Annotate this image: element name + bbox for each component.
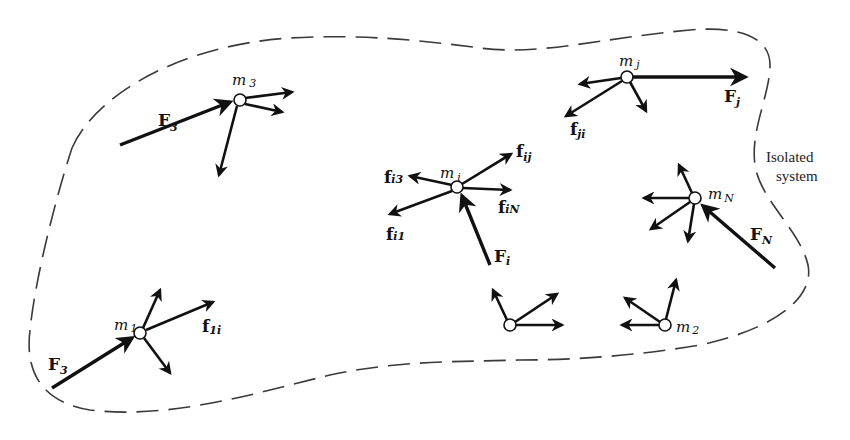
arrow-f-ij <box>462 154 511 184</box>
particle-mN: FN mN <box>644 165 775 268</box>
arrow-m1-down <box>144 338 170 373</box>
label-Fj: Fj <box>724 86 740 109</box>
arrow-mN-down-left <box>651 202 690 229</box>
arrow-m2-up <box>666 280 676 319</box>
particle-m1: F3 f1i m1 <box>48 290 221 388</box>
arrow-m2-up-left <box>625 298 660 322</box>
particle-m3: F3 m3 <box>120 71 292 175</box>
label-Fi: Fi <box>494 246 510 268</box>
particle-mj: Fj fji mj <box>566 52 745 141</box>
arrow-m1-up <box>143 290 160 328</box>
label-f-1i: f1i <box>202 316 221 337</box>
mass-m3 <box>234 94 246 106</box>
mass-mN <box>689 192 701 204</box>
arrow-m3-right-down <box>245 104 282 112</box>
force-arrow-F3-on-m1 <box>52 338 132 388</box>
arrow-mj-left <box>580 78 621 84</box>
arrow-f-iN <box>463 188 510 190</box>
mass-m2 <box>659 319 671 331</box>
particle-unlabeled <box>493 290 562 331</box>
arrow-m3-right <box>245 92 292 98</box>
label-mN: mN <box>708 185 734 205</box>
label-m2: m2 <box>676 318 699 337</box>
label-FN: FN <box>750 224 773 247</box>
isolated-system-diagram: F3 m3 fij fi3 fiN fi1 Fi mi Fj fji mj FN <box>0 0 850 440</box>
particle-m2: m2 <box>622 280 699 337</box>
label-m3: m3 <box>232 71 256 90</box>
arrow-unlabeled-up <box>493 290 507 320</box>
label-f-iN: fiN <box>498 197 521 217</box>
force-arrow-Fi <box>462 196 490 265</box>
label-mi: mi <box>440 164 461 184</box>
particle-mi: fij fi3 fiN fi1 Fi mi <box>384 141 532 268</box>
arrow-mN-up <box>679 165 692 193</box>
mass-mj <box>621 71 633 83</box>
label-m1: m1 <box>114 316 137 335</box>
arrow-mj-down <box>630 82 646 111</box>
label-mj: mj <box>619 52 640 71</box>
label-f-ji: fji <box>570 119 586 141</box>
arrow-m3-down <box>219 106 237 175</box>
label-f-i1: fi1 <box>386 224 405 244</box>
arrow-mN-down <box>688 204 694 241</box>
label-F3-m1: F3 <box>48 354 68 377</box>
isolated-system-label-line1: Isolated <box>766 149 814 165</box>
mass-unlabeled <box>504 319 516 331</box>
label-f-ij: fij <box>516 141 532 164</box>
isolated-system-label-line2: system <box>776 168 818 184</box>
label-f-i3: fi3 <box>384 167 404 187</box>
arrow-unlabeled-up-right <box>515 294 557 322</box>
arrow-f-i1 <box>390 191 452 214</box>
arrow-f-ji <box>566 81 622 116</box>
